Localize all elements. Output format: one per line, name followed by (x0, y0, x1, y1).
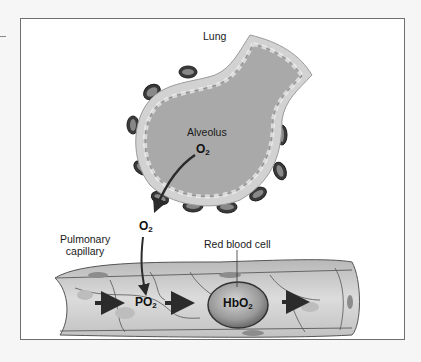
red-blood-cell-label: Red blood cell (204, 239, 271, 251)
pulmonary-capillary-label: Pulmonary capillary (60, 234, 110, 257)
lung-label: Lung (203, 31, 226, 43)
po2-label: PO2 (135, 295, 157, 310)
alveolar-o2-label: O2 (196, 142, 210, 157)
alveolus-label: Alveolus (187, 127, 227, 139)
hbo2-label: HbO2 (223, 296, 253, 311)
diffusing-o2-label: O2 (139, 219, 153, 234)
pulmonary-capillary-line1: Pulmonary (60, 234, 110, 246)
pulmonary-capillary-line2: capillary (60, 246, 110, 258)
diagram-art (0, 0, 421, 362)
alveolus-illustration (127, 35, 312, 213)
